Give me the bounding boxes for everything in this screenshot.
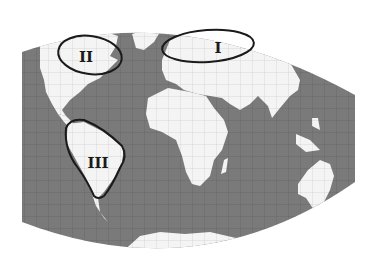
region-label-III: III	[87, 154, 108, 172]
region-label-I: I	[214, 39, 221, 57]
world-map: I II III	[0, 0, 372, 274]
region-label-II: II	[79, 48, 93, 66]
ocean	[0, 0, 372, 274]
